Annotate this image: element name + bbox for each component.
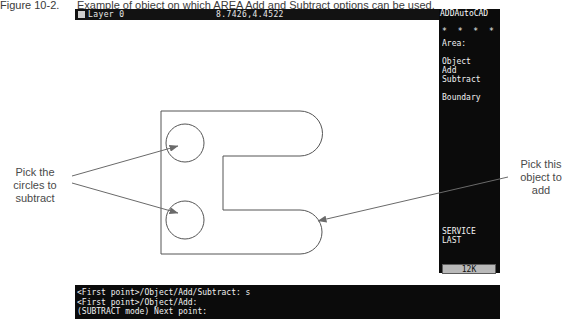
lower-circle[interactable] bbox=[166, 201, 204, 239]
drawing-canvas bbox=[75, 20, 439, 284]
figure-number: Figure 10-2. bbox=[0, 0, 59, 11]
status-bar: Layer 0 8.7426,4.4522 bbox=[75, 9, 500, 20]
status-layer-label[interactable]: Layer 0 bbox=[88, 9, 125, 20]
side-menu-body: * * * * Area: Object Add Subtract Bounda… bbox=[439, 19, 500, 273]
bracket-outline bbox=[161, 111, 323, 254]
annotation-right-label: Pick this object to add bbox=[512, 158, 570, 197]
side-menu-title: ADDAutoCAD bbox=[439, 9, 500, 19]
upper-circle[interactable] bbox=[166, 124, 204, 162]
menu-item-object[interactable]: Object bbox=[442, 57, 500, 66]
menu-item-last[interactable]: LAST bbox=[442, 236, 500, 245]
annotation-left-label: Pick the circles to subtract bbox=[2, 166, 68, 205]
command-line-2: <First point>/Object/Add: bbox=[77, 298, 500, 308]
command-line-area[interactable]: <First point>/Object/Add/Subtract: s <Fi… bbox=[75, 285, 500, 319]
menu-item-stars[interactable]: * * * * bbox=[442, 27, 500, 36]
layer-color-swatch-icon bbox=[78, 11, 85, 18]
figure-root: Figure 10-2. Example of object on which … bbox=[0, 0, 572, 325]
autocad-screen: Layer 0 8.7426,4.4522 ADDAutoCAD * * * *… bbox=[75, 9, 500, 319]
menu-item-boundary[interactable]: Boundary bbox=[442, 93, 500, 102]
memory-indicator: 12K bbox=[442, 264, 496, 274]
menu-item-service[interactable]: SERVICE bbox=[442, 227, 500, 236]
menu-item-add[interactable]: Add bbox=[442, 66, 500, 75]
side-screen-menu[interactable]: ADDAutoCAD * * * * Area: Object Add Subt… bbox=[439, 9, 500, 273]
menu-item-subtract[interactable]: Subtract bbox=[442, 75, 500, 84]
status-coordinates[interactable]: 8.7426,4.4522 bbox=[216, 9, 284, 20]
graphics-area[interactable] bbox=[75, 20, 439, 284]
command-line-3: (SUBTRACT mode) Next point: bbox=[77, 307, 500, 317]
menu-item-area[interactable]: Area: bbox=[442, 39, 500, 48]
command-line-1: <First point>/Object/Add/Subtract: s bbox=[77, 288, 500, 298]
